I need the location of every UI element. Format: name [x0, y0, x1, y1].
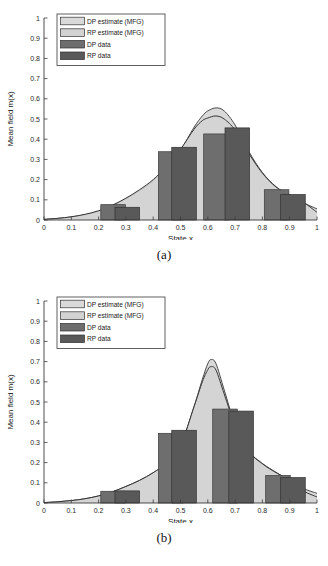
x-tick-label: 0.7: [230, 224, 240, 231]
x-tick-label: 1: [315, 507, 319, 514]
y-tick-label: 0.5: [30, 399, 40, 406]
x-tick-label: 0.5: [176, 507, 186, 514]
legend-swatch: [61, 52, 85, 60]
legend-swatch: [61, 17, 85, 25]
y-tick-label: 0.7: [30, 358, 40, 365]
plot-a: 00.10.20.30.40.50.60.70.80.9100.10.20.30…: [0, 0, 328, 240]
legend-label: RP estimate (MFG): [87, 29, 144, 37]
y-axis-label: Mean field m(x): [6, 91, 15, 146]
y-tick-label: 0.1: [30, 479, 40, 486]
x-tick-label: 0: [42, 224, 46, 231]
legend-label: DP data: [87, 324, 111, 331]
x-tick-label: 0.1: [66, 224, 76, 231]
y-tick-label: 0.2: [30, 176, 40, 183]
x-axis-label: State x: [168, 517, 193, 523]
y-tick-label: 1: [36, 298, 40, 305]
y-tick-label: 0.1: [30, 196, 40, 203]
x-tick-label: 0.4: [148, 507, 158, 514]
x-tick-label: 0: [42, 507, 46, 514]
y-tick-label: 0.5: [30, 116, 40, 123]
legend-label: DP estimate (MFG): [87, 301, 144, 309]
x-tick-label: 1: [315, 224, 319, 231]
panel-a-caption: (a): [0, 247, 328, 263]
y-tick-label: 0.6: [30, 95, 40, 102]
y-tick-label: 0.3: [30, 156, 40, 163]
x-tick-label: 0.6: [203, 507, 213, 514]
legend-swatch: [61, 312, 85, 320]
x-tick-label: 0.9: [285, 507, 295, 514]
legend-swatch: [61, 40, 85, 48]
y-tick-label: 1: [36, 15, 40, 22]
x-tick-label: 0.3: [121, 507, 131, 514]
figure-two-panel-mean-field: 00.10.20.30.40.50.60.70.80.9100.10.20.30…: [0, 0, 328, 566]
y-tick-label: 0.8: [30, 338, 40, 345]
data-bar: [281, 195, 306, 220]
y-tick-label: 0.2: [30, 459, 40, 466]
legend-swatch: [61, 300, 85, 308]
x-tick-label: 0.5: [176, 224, 186, 231]
legend-label: DP estimate (MFG): [87, 18, 144, 26]
data-bar: [172, 430, 197, 503]
y-tick-label: 0.8: [30, 55, 40, 62]
x-tick-label: 0.2: [94, 507, 104, 514]
x-tick-label: 0.2: [94, 224, 104, 231]
x-tick-label: 0.7: [230, 507, 240, 514]
legend-label: RP data: [87, 52, 111, 59]
y-tick-label: 0.6: [30, 378, 40, 385]
legend-swatch: [61, 323, 85, 331]
legend-swatch: [61, 29, 85, 37]
y-tick-label: 0.4: [30, 419, 40, 426]
x-tick-label: 0.9: [285, 224, 295, 231]
x-tick-label: 0.8: [258, 507, 268, 514]
x-axis-label: State x: [168, 234, 193, 240]
x-tick-label: 0.3: [121, 224, 131, 231]
data-bar: [115, 207, 140, 220]
legend-label: RP data: [87, 335, 111, 342]
y-tick-label: 0.9: [30, 318, 40, 325]
data-bar: [204, 134, 229, 220]
data-bar: [115, 491, 140, 503]
data-bar: [229, 411, 254, 503]
y-tick-label: 0.3: [30, 439, 40, 446]
data-bar: [281, 478, 306, 503]
legend-label: DP data: [87, 41, 111, 48]
x-tick-label: 0.4: [148, 224, 158, 231]
panel-a: 00.10.20.30.40.50.60.70.80.9100.10.20.30…: [0, 0, 328, 283]
x-tick-label: 0.6: [203, 224, 213, 231]
panel-b: 00.10.20.30.40.50.60.70.80.9100.10.20.30…: [0, 283, 328, 566]
y-tick-label: 0: [36, 500, 40, 507]
legend-swatch: [61, 335, 85, 343]
plot-b: 00.10.20.30.40.50.60.70.80.9100.10.20.30…: [0, 283, 328, 523]
x-tick-label: 0.8: [258, 224, 268, 231]
x-tick-label: 0.1: [66, 507, 76, 514]
y-axis-label: Mean field m(x): [6, 374, 15, 429]
panel-b-caption: (b): [0, 530, 328, 546]
y-tick-label: 0.9: [30, 35, 40, 42]
y-tick-label: 0: [36, 217, 40, 224]
y-tick-label: 0.7: [30, 75, 40, 82]
legend-label: RP estimate (MFG): [87, 312, 144, 320]
y-tick-label: 0.4: [30, 136, 40, 143]
data-bar: [172, 147, 197, 220]
data-bar: [225, 128, 250, 220]
